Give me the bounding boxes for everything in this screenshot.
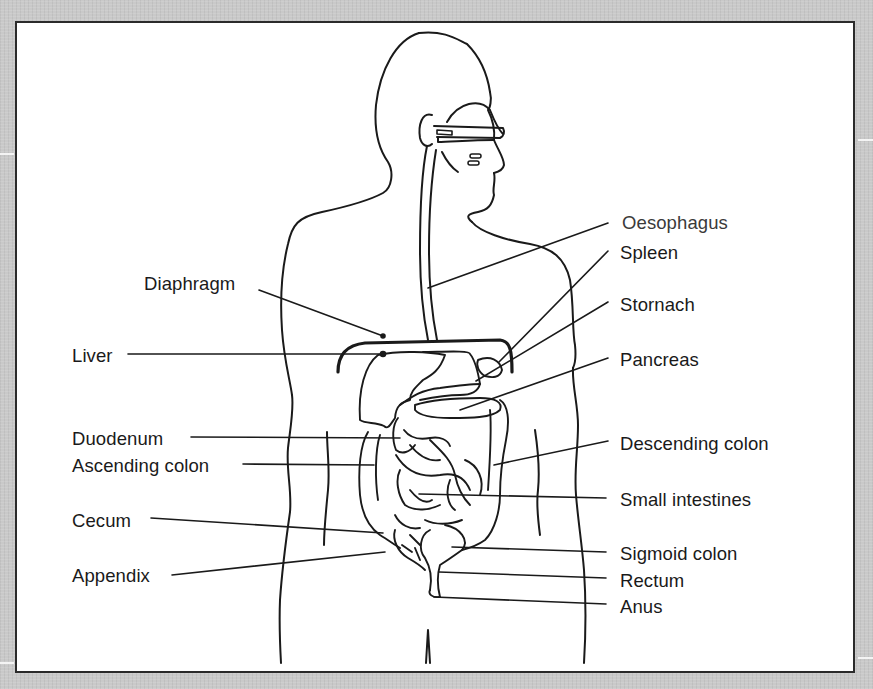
body-outline xyxy=(280,32,586,663)
label-stomach: Stornach xyxy=(620,296,695,315)
organs xyxy=(359,352,508,598)
label-duodenum: Duodenum xyxy=(72,430,163,449)
label-spleen: Spleen xyxy=(620,244,678,263)
diagram-panel: Diaphragm Liver Duodenum Ascending colon… xyxy=(15,21,855,673)
label-small-intestines: Small intestines xyxy=(620,491,751,510)
label-oesophagus: Oesophagus xyxy=(622,214,728,233)
diaphragm-shape xyxy=(338,340,512,372)
label-sigmoid-colon: Sigmoid colon xyxy=(620,545,738,564)
label-ascending-colon: Ascending colon xyxy=(72,457,209,476)
label-appendix: Appendix xyxy=(72,567,150,586)
label-diaphragm: Diaphragm xyxy=(144,275,235,294)
head-interior xyxy=(420,103,505,165)
label-cecum: Cecum xyxy=(72,512,131,531)
label-liver: Liver xyxy=(72,347,113,366)
label-descending-colon: Descending colon xyxy=(620,435,769,454)
label-rectum: Rectum xyxy=(620,572,684,591)
label-pancreas: Pancreas xyxy=(620,351,699,370)
label-anus: Anus xyxy=(620,598,663,617)
oesophagus xyxy=(420,146,458,340)
